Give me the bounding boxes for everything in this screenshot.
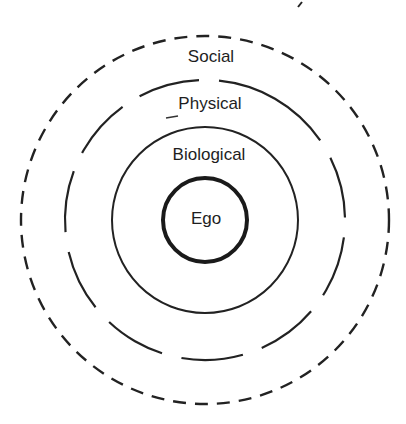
social-label: Social <box>188 47 234 67</box>
stray-dash <box>166 116 178 118</box>
stray-mark <box>298 2 302 7</box>
biological-label: Biological <box>173 145 246 165</box>
physical-label: Physical <box>178 94 241 114</box>
ego-label: Ego <box>191 209 221 229</box>
